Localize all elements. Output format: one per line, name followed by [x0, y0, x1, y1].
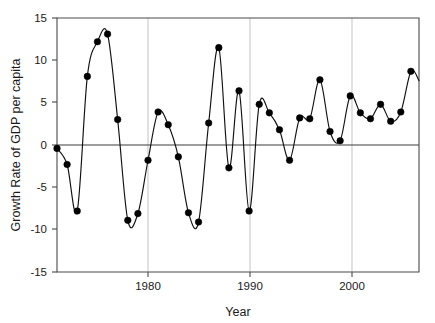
ytick-label-minus10: -10: [30, 223, 47, 235]
data-point: [408, 68, 415, 75]
data-point: [74, 208, 81, 215]
data-point: [317, 77, 324, 84]
data-point: [135, 210, 142, 217]
ytick-label-minus15: -15: [30, 266, 47, 278]
ytick-label-15: 15: [34, 12, 47, 24]
data-point: [145, 157, 152, 164]
data-point: [195, 219, 202, 226]
data-point: [64, 161, 71, 168]
data-point: [367, 115, 374, 122]
x-axis-ticks: [148, 272, 352, 277]
data-point: [337, 137, 344, 144]
data-point: [226, 165, 233, 172]
xtick-label-1990: 1990: [237, 280, 263, 292]
x-axis-title: Year: [225, 305, 250, 319]
ytick-label-10: 10: [34, 54, 47, 66]
data-point: [377, 101, 384, 108]
chart-figure: 15 10 5 0 -5 -10 -15 1980 1990 2000 Year…: [0, 0, 435, 323]
data-point: [327, 128, 334, 135]
chart-svg: 15 10 5 0 -5 -10 -15 1980 1990 2000 Year…: [0, 0, 435, 323]
ytick-label-minus5: -5: [37, 181, 47, 193]
data-point: [276, 126, 283, 133]
data-point: [387, 118, 394, 125]
data-point: [266, 110, 273, 117]
data-point: [165, 121, 172, 128]
data-point: [357, 110, 364, 117]
data-point: [398, 109, 405, 116]
x-axis-tick-labels: 1980 1990 2000: [135, 280, 365, 292]
ytick-label-0: 0: [41, 139, 47, 151]
data-point: [114, 116, 121, 123]
data-point: [175, 154, 182, 161]
data-point: [54, 145, 61, 152]
data-point: [256, 101, 263, 108]
ytick-label-5: 5: [41, 96, 47, 108]
data-point: [236, 88, 243, 95]
data-point: [205, 120, 212, 127]
data-point: [347, 93, 354, 100]
data-point: [84, 73, 91, 80]
data-point: [104, 31, 111, 38]
data-point: [306, 115, 313, 122]
y-axis-title: Growth Rate of GDP per capita: [9, 59, 23, 232]
data-point: [124, 217, 131, 224]
data-point: [155, 109, 162, 116]
y-axis-tick-labels: 15 10 5 0 -5 -10 -15: [30, 12, 47, 278]
xtick-label-1980: 1980: [135, 280, 161, 292]
xtick-label-2000: 2000: [339, 280, 365, 292]
data-point: [94, 38, 101, 45]
data-point: [215, 44, 222, 51]
data-point: [296, 115, 303, 122]
data-point: [246, 208, 253, 215]
data-point: [286, 157, 293, 164]
data-point: [185, 209, 192, 216]
